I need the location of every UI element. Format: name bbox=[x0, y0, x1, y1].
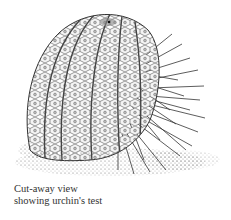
test-apex bbox=[100, 18, 116, 26]
urchin-test bbox=[27, 14, 159, 162]
figure-caption: Cut-away view showing urchin's test bbox=[14, 183, 102, 206]
caption-line-2: showing urchin's test bbox=[14, 195, 102, 207]
caption-line-1: Cut-away view bbox=[14, 183, 102, 195]
